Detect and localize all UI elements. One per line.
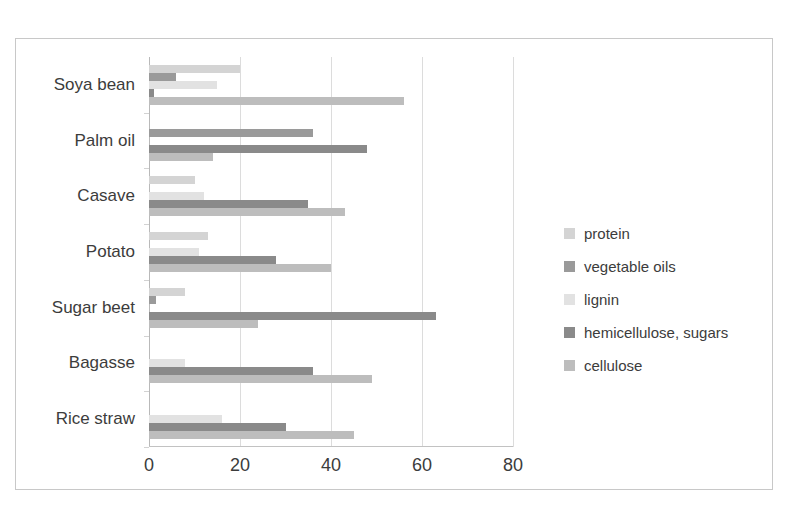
bar[interactable] — [149, 423, 286, 431]
bar-track — [149, 407, 513, 415]
cropped-header-text — [22, 0, 242, 12]
bar[interactable] — [149, 153, 213, 161]
legend-swatch-icon — [564, 294, 575, 305]
axis-tick-mark — [144, 447, 149, 448]
bar-track — [149, 121, 513, 129]
bar-track — [149, 296, 513, 304]
bar[interactable] — [149, 359, 185, 367]
x-tick-label-80: 80 — [503, 455, 523, 476]
category-label-palm-oil: Palm oil — [75, 131, 135, 151]
bar-track — [149, 89, 513, 97]
bar[interactable] — [149, 65, 240, 73]
bar-group — [149, 113, 513, 169]
legend-item-vegetable-oils[interactable]: vegetable oils — [564, 250, 779, 283]
bar-track — [149, 129, 513, 137]
bar-track — [149, 359, 513, 367]
bar-track — [149, 264, 513, 272]
bar-group — [149, 391, 513, 447]
bar-group — [149, 168, 513, 224]
bar-track — [149, 304, 513, 312]
bar[interactable] — [149, 232, 208, 240]
bar-track — [149, 240, 513, 248]
legend-swatch-icon — [564, 261, 575, 272]
category-label-sugar-beet: Sugar beet — [52, 298, 135, 318]
bar-track — [149, 423, 513, 431]
bar[interactable] — [149, 296, 156, 304]
x-tick-label-60: 60 — [412, 455, 432, 476]
bar-track — [149, 81, 513, 89]
category-label-casave: Casave — [77, 186, 135, 206]
category-label-bagasse: Bagasse — [69, 353, 135, 373]
legend-item-lignin[interactable]: lignin — [564, 283, 779, 316]
bar-track — [149, 312, 513, 320]
bar[interactable] — [149, 415, 222, 423]
category-label-soya-bean: Soya bean — [54, 75, 135, 95]
bar[interactable] — [149, 81, 217, 89]
bar-track — [149, 256, 513, 264]
bar-track — [149, 232, 513, 240]
legend-label: protein — [584, 225, 630, 242]
bar-track — [149, 351, 513, 359]
legend: proteinvegetable oilsligninhemicellulose… — [564, 217, 779, 382]
bar-track — [149, 137, 513, 145]
legend-item-cellulose[interactable]: cellulose — [564, 349, 779, 382]
bar-track — [149, 399, 513, 407]
legend-swatch-icon — [564, 228, 575, 239]
bar[interactable] — [149, 129, 313, 137]
bar[interactable] — [149, 192, 204, 200]
chart-frame: Soya beanPalm oilCasavePotatoSugar beetB… — [15, 38, 773, 490]
bar[interactable] — [149, 248, 199, 256]
bar[interactable] — [149, 375, 372, 383]
bar[interactable] — [149, 97, 404, 105]
bar[interactable] — [149, 312, 436, 320]
bar[interactable] — [149, 176, 195, 184]
bar-track — [149, 288, 513, 296]
bar-group — [149, 336, 513, 392]
bar-track — [149, 320, 513, 328]
bar-track — [149, 73, 513, 81]
legend-swatch-icon — [564, 327, 575, 338]
category-label-potato: Potato — [86, 242, 135, 262]
bar[interactable] — [149, 208, 345, 216]
bar[interactable] — [149, 367, 313, 375]
bar-group — [149, 57, 513, 113]
category-label-rice-straw: Rice straw — [56, 409, 135, 429]
bar[interactable] — [149, 89, 154, 97]
bar-track — [149, 184, 513, 192]
bar[interactable] — [149, 256, 276, 264]
legend-swatch-icon — [564, 360, 575, 371]
bar[interactable] — [149, 145, 367, 153]
bar-track — [149, 208, 513, 216]
bar[interactable] — [149, 431, 354, 439]
bar-track — [149, 367, 513, 375]
x-tick-label-20: 20 — [230, 455, 250, 476]
x-tick-label-0: 0 — [144, 455, 154, 476]
bar-track — [149, 97, 513, 105]
plot-area: Soya beanPalm oilCasavePotatoSugar beetB… — [149, 57, 513, 447]
bar[interactable] — [149, 288, 185, 296]
bar-track — [149, 415, 513, 423]
bar-group — [149, 280, 513, 336]
gridline-80 — [513, 57, 514, 447]
bar-group — [149, 224, 513, 280]
bar-track — [149, 176, 513, 184]
bar-track — [149, 65, 513, 73]
bar-track — [149, 153, 513, 161]
bar-track — [149, 375, 513, 383]
bar[interactable] — [149, 200, 308, 208]
bar[interactable] — [149, 320, 258, 328]
bar[interactable] — [149, 73, 176, 81]
bar-track — [149, 192, 513, 200]
bar[interactable] — [149, 264, 331, 272]
bar-track — [149, 145, 513, 153]
legend-label: vegetable oils — [584, 258, 676, 275]
legend-item-hemicellulose-sugars[interactable]: hemicellulose, sugars — [564, 316, 779, 349]
x-axis-line — [149, 446, 513, 447]
legend-label: lignin — [584, 291, 619, 308]
legend-item-protein[interactable]: protein — [564, 217, 779, 250]
bar-track — [149, 248, 513, 256]
bar-track — [149, 431, 513, 439]
legend-label: cellulose — [584, 357, 642, 374]
bar-track — [149, 343, 513, 351]
legend-label: hemicellulose, sugars — [584, 324, 728, 341]
